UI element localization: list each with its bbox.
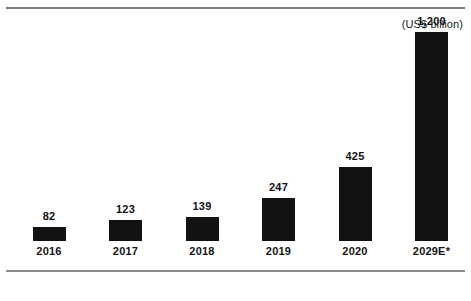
x-axis-tick-label: 2020	[316, 245, 394, 257]
x-axis-tick-label: 2017	[87, 245, 165, 257]
bar-rect	[262, 198, 295, 241]
bar-group: 1,2002029E*	[393, 0, 471, 241]
bar-rect	[109, 220, 142, 241]
bar-column: 82	[10, 0, 88, 241]
category-axis-line	[6, 270, 465, 272]
bar-rect	[339, 167, 372, 241]
bar-rect	[186, 217, 219, 241]
bar-value-label: 82	[43, 211, 56, 222]
bar-group: 4252020	[316, 0, 394, 241]
bar-group: 822016	[10, 0, 88, 241]
x-axis-tick-label: 2029E*	[393, 245, 471, 257]
bar-value-label: 1,200	[417, 16, 446, 27]
bar-column: 1,200	[393, 0, 471, 241]
bar-chart-figure: (US$ billion) 82201612320171392018247201…	[0, 0, 471, 301]
bar-value-label: 123	[116, 204, 135, 215]
bar-column: 139	[163, 0, 241, 241]
bar-column: 123	[87, 0, 165, 241]
bar-group: 1232017	[87, 0, 165, 241]
x-axis-tick-label: 2016	[10, 245, 88, 257]
bar-value-label: 139	[193, 201, 212, 212]
bar-group: 1392018	[163, 0, 241, 241]
bar-group: 2472019	[240, 0, 318, 241]
bar-column: 425	[316, 0, 394, 241]
plot-area: 82201612320171392018247201942520201,2002…	[0, 0, 471, 271]
bar-value-label: 247	[269, 182, 288, 193]
bar-value-label: 425	[346, 151, 365, 162]
x-axis-tick-label: 2019	[240, 245, 318, 257]
bar-rect	[33, 227, 66, 241]
x-axis-tick-label: 2018	[163, 245, 241, 257]
bar-column: 247	[240, 0, 318, 241]
bar-rect	[415, 32, 448, 241]
